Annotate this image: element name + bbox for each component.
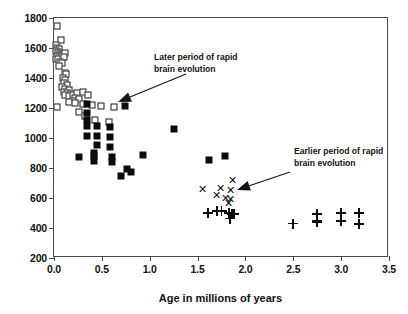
- data-point-open-square: [97, 102, 104, 109]
- x-tick-mark: [341, 256, 342, 261]
- data-point-filled-square: [107, 134, 114, 141]
- data-point-plus: [354, 208, 364, 218]
- x-tick-label: 0.0: [47, 263, 61, 275]
- y-tick-mark: [49, 198, 54, 199]
- data-point-filled-square: [83, 133, 90, 140]
- data-point-filled-square: [127, 169, 134, 176]
- data-point-filled-square: [94, 141, 101, 148]
- x-tick-mark: [102, 256, 103, 261]
- data-point-filled-square: [94, 123, 101, 130]
- data-point-filled-square: [91, 158, 98, 165]
- x-axis-title: Age in millions of years: [53, 292, 388, 304]
- x-tick-label: 2.0: [238, 263, 252, 275]
- data-point-filled-square: [83, 123, 90, 130]
- y-tick-label: 800: [30, 162, 47, 174]
- y-tick-mark: [49, 18, 54, 19]
- data-point-open-square: [53, 104, 60, 111]
- data-point-filled-square: [170, 126, 177, 133]
- data-point-plus: [354, 219, 364, 229]
- x-tick-label: 1.5: [191, 263, 205, 275]
- data-point-filled-square: [83, 100, 90, 107]
- data-point-open-square: [85, 91, 92, 98]
- data-point-filled-square: [94, 133, 101, 140]
- data-point-filled-square: [75, 154, 82, 161]
- data-point-filled-square: [118, 172, 125, 179]
- later-period-annotation-arrow: [108, 64, 196, 112]
- y-tick-label: 1200: [24, 102, 47, 114]
- data-point-plus: [225, 214, 235, 224]
- data-point-filled-square: [107, 123, 114, 130]
- earlier-period-annotation-text: Earlier period of rapid brain evolution: [294, 146, 383, 169]
- scatter-plot-figure: Cranial capacity (cm³) 20040060080010001…: [0, 0, 408, 314]
- y-tick-mark: [49, 228, 54, 229]
- x-tick-label: 2.5: [286, 263, 300, 275]
- y-tick-mark: [49, 168, 54, 169]
- data-point-open-square: [53, 22, 60, 29]
- y-tick-label: 200: [30, 252, 47, 264]
- data-point-plus: [288, 219, 298, 229]
- x-tick-mark: [245, 256, 246, 261]
- y-tick-mark: [49, 138, 54, 139]
- earlier-period-annotation-arrow: [227, 162, 300, 200]
- x-tick-mark: [150, 256, 151, 261]
- y-tick-label: 1000: [24, 132, 47, 144]
- data-point-filled-square: [107, 143, 114, 150]
- x-tick-label: 3.5: [382, 263, 396, 275]
- x-tick-label: 0.5: [95, 263, 109, 275]
- y-tick-label: 1800: [24, 12, 47, 24]
- y-tick-label: 1600: [24, 42, 47, 54]
- y-tick-label: 600: [30, 192, 47, 204]
- y-tick-label: 400: [30, 222, 47, 234]
- x-tick-mark: [54, 256, 55, 261]
- x-tick-label: 3.0: [334, 263, 348, 275]
- data-point-asterisk: ✕: [198, 185, 207, 194]
- data-point-filled-square: [206, 156, 213, 163]
- data-point-filled-square: [140, 151, 147, 158]
- data-point-plus: [336, 216, 346, 226]
- data-point-filled-square: [222, 153, 229, 160]
- data-point-filled-square: [109, 158, 116, 165]
- x-tick-label: 1.0: [143, 263, 157, 275]
- y-tick-label: 1400: [24, 72, 47, 84]
- x-tick-mark: [198, 256, 199, 261]
- data-point-open-square: [72, 100, 79, 107]
- y-tick-mark: [49, 78, 54, 79]
- data-point-plus: [312, 217, 322, 227]
- x-tick-mark: [389, 256, 390, 261]
- x-tick-mark: [293, 256, 294, 261]
